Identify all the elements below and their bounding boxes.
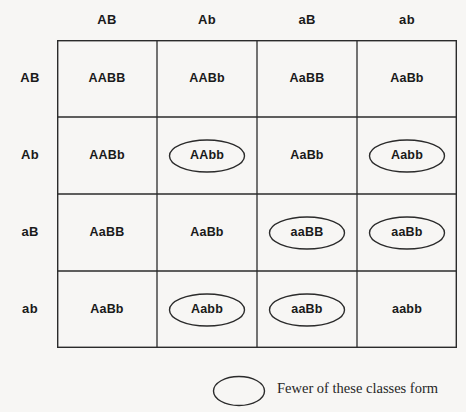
genotype-label: AaBb [190, 226, 223, 239]
punnett-cell: AaBb [157, 194, 257, 271]
punnett-cell: aaBb [357, 194, 457, 271]
legend-ellipse-icon [212, 375, 266, 407]
genotype-label: AaBb [90, 303, 123, 316]
genotype-label: AAbb [190, 149, 224, 162]
column-header-ab-3: aB [257, 11, 357, 29]
punnett-square-figure: AB Ab aB ab AB Ab aB ab AABB AABb AaBB A… [0, 0, 466, 412]
punnett-cell: AaBb [57, 271, 157, 348]
punnett-cell: Aabb [157, 271, 257, 348]
genotype-label: AaBb [390, 72, 423, 85]
legend: Fewer of these classes form [208, 370, 458, 410]
punnett-cell: aaBB [257, 194, 357, 271]
column-header-ab-2: Ab [157, 11, 257, 29]
row-header-ab-3: aB [8, 223, 52, 241]
punnett-cell: Aabb [357, 117, 457, 194]
punnett-cell: AaBb [357, 40, 457, 117]
row-header-ab-dominant: AB [8, 69, 52, 87]
genotype-label: AaBB [290, 72, 325, 85]
punnett-cell: aaBb [257, 271, 357, 348]
genotype-label: aabb [392, 303, 422, 316]
genotype-label: AABB [89, 72, 126, 85]
legend-label: Fewer of these classes form [277, 380, 438, 397]
punnett-cell: aabb [357, 271, 457, 348]
punnett-cell: AABB [57, 40, 157, 117]
punnett-cell: AaBb [257, 117, 357, 194]
genotype-label: aaBB [291, 226, 324, 239]
row-header-ab-4: ab [8, 300, 52, 318]
punnett-cell: AaBB [57, 194, 157, 271]
genotype-label: AABb [189, 72, 225, 85]
punnett-cell: AABb [57, 117, 157, 194]
punnett-cell: AaBB [257, 40, 357, 117]
punnett-grid: AABB AABb AaBB AaBb AABb AAbb AaBb [57, 40, 457, 348]
genotype-label: aaBb [291, 303, 322, 316]
punnett-cell: AABb [157, 40, 257, 117]
genotype-label: Aabb [191, 303, 223, 316]
genotype-label: aaBb [391, 226, 422, 239]
column-header-ab-dominant: AB [57, 11, 157, 29]
genotype-label: Aabb [391, 149, 423, 162]
genotype-label: AABb [89, 149, 125, 162]
row-header-ab-2: Ab [8, 146, 52, 164]
column-header-ab-4: ab [357, 11, 457, 29]
genotype-label: AaBB [90, 226, 125, 239]
punnett-cell: AAbb [157, 117, 257, 194]
genotype-label: AaBb [290, 149, 323, 162]
